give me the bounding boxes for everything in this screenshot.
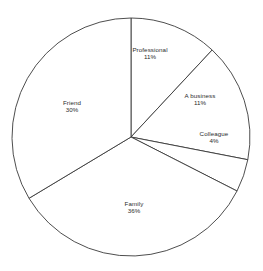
pie-chart-canvas: [0, 0, 263, 271]
pie-chart: Professional11%A business11%Colleague4%F…: [0, 0, 263, 271]
pie-slice-group: [12, 18, 250, 256]
